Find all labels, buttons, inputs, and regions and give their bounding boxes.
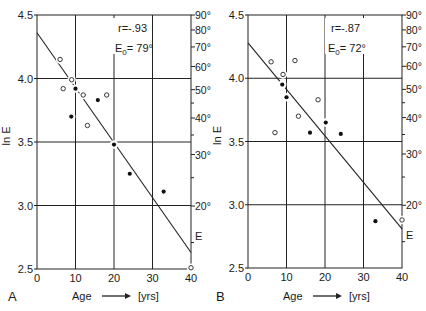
data-point-filled xyxy=(373,219,377,223)
data-point-filled xyxy=(69,115,73,119)
data-point-filled xyxy=(339,132,343,136)
data-point-open xyxy=(316,98,320,102)
data-point-filled xyxy=(73,87,77,91)
data-point-filled xyxy=(280,82,284,86)
e0-label: E0= 72° xyxy=(328,42,366,57)
right-axis-title: E xyxy=(195,230,202,242)
right-axis-label: 40° xyxy=(195,112,211,124)
data-point-open xyxy=(85,123,89,127)
right-axis-label: 60° xyxy=(195,61,211,73)
data-point-filled xyxy=(308,131,312,135)
right-axis-label: 20° xyxy=(195,200,211,212)
data-point-filled xyxy=(162,189,166,193)
panel-letter: A xyxy=(8,289,17,304)
panel-letter: B xyxy=(216,289,225,304)
data-point-open xyxy=(58,57,62,61)
x-tick-label: 0 xyxy=(245,271,251,283)
arrow-head-icon xyxy=(125,293,131,299)
right-axis-label: 30° xyxy=(195,149,211,161)
data-point-open xyxy=(269,60,273,64)
data-point-filled xyxy=(112,142,116,146)
right-axis-label: 90° xyxy=(406,9,422,21)
data-point-open xyxy=(296,114,300,118)
x-tick-label: 40 xyxy=(396,271,408,283)
x-tick-label: 30 xyxy=(146,272,158,284)
y-tick-label: 4.5 xyxy=(229,9,244,21)
x-axis-title: Age xyxy=(72,290,92,302)
figure: r=-.93E0= 79°0102030402.53.03.54.04.5ln … xyxy=(0,0,426,311)
data-point-filled xyxy=(128,172,132,176)
y-tick-label: 3.0 xyxy=(229,199,244,211)
correlation-label: r=-.87 xyxy=(331,22,360,34)
x-tick-label: 0 xyxy=(34,272,40,284)
right-axis-label: 50° xyxy=(406,83,422,95)
panel-b: r=-.87E0= 72°0102030402.53.03.54.04.5ln … xyxy=(211,9,422,304)
x-axis-title: Age xyxy=(283,290,303,302)
right-axis-label: 20° xyxy=(406,199,422,211)
x-tick-label: 40 xyxy=(185,272,197,284)
e0-label: E0= 79° xyxy=(115,42,153,57)
x-tick-label: 20 xyxy=(319,271,331,283)
data-point-filled xyxy=(324,120,328,124)
x-tick-label: 20 xyxy=(108,272,120,284)
y-tick-label: 3.5 xyxy=(18,136,33,148)
y-tick-label: 4.0 xyxy=(18,73,33,85)
data-point-open xyxy=(189,266,193,270)
data-point-open xyxy=(293,58,297,62)
data-point-open xyxy=(400,218,404,222)
x-tick-label: 10 xyxy=(280,271,292,283)
data-point-open xyxy=(61,86,65,90)
y-axis-title: ln E xyxy=(211,126,223,145)
right-axis-label: 30° xyxy=(406,148,422,160)
y-tick-label: 3.5 xyxy=(229,136,244,148)
x-tick-label: 10 xyxy=(69,272,81,284)
data-point-open xyxy=(69,78,73,82)
data-point-open xyxy=(104,93,108,97)
y-tick-label: 2.5 xyxy=(229,262,244,274)
right-axis-label: 40° xyxy=(406,112,422,124)
y-tick-label: 4.0 xyxy=(229,72,244,84)
x-axis-unit: [yrs] xyxy=(138,290,159,302)
x-tick-label: 30 xyxy=(357,271,369,283)
right-axis-label: 80° xyxy=(406,24,422,36)
x-axis-unit: [yrs] xyxy=(349,290,370,302)
right-axis-title: E xyxy=(406,229,413,241)
data-point-filled xyxy=(284,95,288,99)
arrow-head-icon xyxy=(336,293,342,299)
y-tick-label: 3.0 xyxy=(18,200,33,212)
right-axis-label: 70° xyxy=(195,41,211,53)
panel-a: r=-.93E0= 79°0102030402.53.03.54.04.5ln … xyxy=(0,9,211,304)
right-axis-label: 60° xyxy=(406,60,422,72)
right-axis-label: 90° xyxy=(195,9,211,21)
data-point-open xyxy=(281,72,285,76)
right-axis-label: 80° xyxy=(195,24,211,36)
right-axis-label: 70° xyxy=(406,41,422,53)
data-point-open xyxy=(273,130,277,134)
y-axis-title: ln E xyxy=(0,127,12,146)
data-point-open xyxy=(81,93,85,97)
data-point-filled xyxy=(96,98,100,102)
correlation-label: r=-.93 xyxy=(118,22,147,34)
right-axis-label: 50° xyxy=(195,84,211,96)
y-tick-label: 2.5 xyxy=(18,263,33,275)
y-tick-label: 4.5 xyxy=(18,9,33,21)
